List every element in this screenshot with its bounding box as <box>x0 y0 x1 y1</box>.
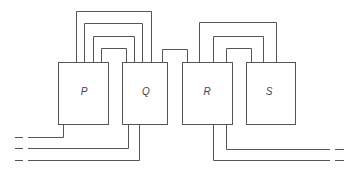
label-s: S <box>266 86 273 97</box>
loop-r-s-1 <box>200 23 277 63</box>
label-r: R <box>203 86 210 97</box>
loop-r-s-2 <box>214 37 264 63</box>
lead-p <box>28 124 64 138</box>
lead-r-2 <box>214 124 331 161</box>
loop-r-s-3 <box>227 49 252 63</box>
lead-q-1 <box>28 124 129 149</box>
bridge-q-r <box>163 50 188 63</box>
label-q: Q <box>142 86 150 97</box>
label-p: P <box>81 86 88 97</box>
lead-q-2 <box>28 124 140 161</box>
boxes: P Q R S <box>59 63 296 125</box>
loop-p-q-3 <box>94 37 135 63</box>
lead-r-1 <box>227 124 331 150</box>
top-loops <box>77 12 277 63</box>
leads <box>15 124 344 161</box>
wiring-diagram: P Q R S <box>0 0 359 174</box>
loop-p-q-4 <box>102 49 127 63</box>
